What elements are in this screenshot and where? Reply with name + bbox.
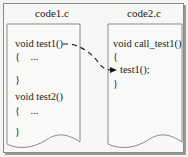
code1-line-test1-signature: void test1() <box>15 38 63 50</box>
code1-line-test2-close: } <box>15 126 20 138</box>
code2-title: code2.c <box>104 7 184 20</box>
document-shapes <box>0 0 188 157</box>
code2-line-close-brace: } <box>113 78 118 90</box>
code1-line-test2-signature: void test2() <box>15 91 63 103</box>
code1-line-test2-body: { ... <box>15 105 38 117</box>
code1-line-test1-body: { ... <box>15 51 38 63</box>
code2-line-call-signature: void call_test1() <box>113 38 182 50</box>
code2-line-test1-call: test1(); <box>120 64 150 76</box>
code2-line-open-brace: { <box>113 51 118 63</box>
code1-line-test1-close: } <box>15 74 20 86</box>
code1-title: code1.c <box>12 7 92 20</box>
